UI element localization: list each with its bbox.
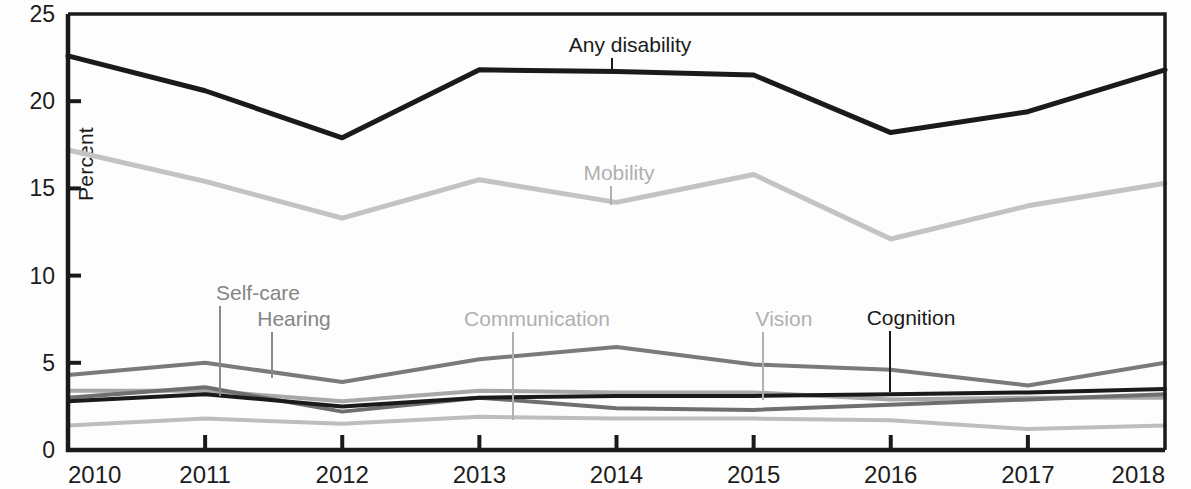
x-tick-label: 2011 (179, 461, 231, 488)
x-tick-label: 2018 (1112, 461, 1165, 488)
x-tick-label: 2012 (316, 461, 369, 488)
series-lines-group (68, 56, 1165, 429)
x-tick-label: 2014 (590, 461, 643, 488)
annotation-label-any-disability: Any disability (569, 33, 692, 56)
x-tick-label: 2010 (68, 461, 121, 488)
series-line-hearing (68, 347, 1165, 385)
y-tick-label: 20 (29, 88, 55, 114)
plot-frame-top-right (68, 14, 1165, 450)
annotation-label-communication: Communication (464, 307, 610, 330)
y-tick-label: 15 (29, 175, 55, 201)
x-tick-label: 2016 (864, 461, 917, 488)
series-annotations-group: Any disabilityMobilitySelf-careHearingCo… (216, 33, 955, 420)
y-tick-label: 10 (29, 263, 55, 289)
x-tick-label: 2015 (727, 461, 780, 488)
y-tick-label: 0 (42, 437, 55, 463)
annotation-label-hearing: Hearing (257, 307, 331, 330)
plot-frame-left-bottom (68, 14, 1165, 450)
y-tick-label: 5 (42, 350, 55, 376)
line-chart-plot: 0510152025 20102011201220132014201520162… (0, 0, 1191, 489)
y-tick-label: 25 (29, 1, 55, 27)
chart-figure: Percent 0510152025 201020112012201320142… (0, 0, 1191, 489)
annotation-label-mobility: Mobility (583, 161, 655, 184)
x-tick-label-group: 201020112012201320142015201620172018 (68, 461, 1165, 488)
annotation-label-self-care: Self-care (216, 281, 300, 304)
x-tick-label: 2013 (453, 461, 506, 488)
annotation-label-cognition: Cognition (867, 306, 956, 329)
y-tick-label-group: 0510152025 (29, 1, 55, 463)
x-tick-label: 2017 (1001, 461, 1054, 488)
series-line-vision (68, 417, 1165, 429)
series-line-any-disability (68, 56, 1165, 138)
plot-frame (68, 14, 1165, 450)
annotation-label-vision: Vision (756, 307, 813, 330)
